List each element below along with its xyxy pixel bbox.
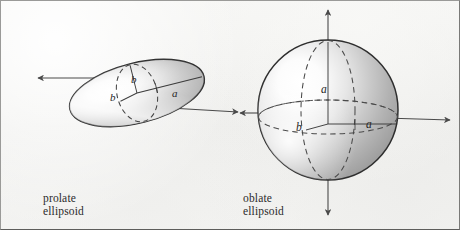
prolate-label-b-depth: b xyxy=(110,91,116,103)
oblate-label-b-depth: b xyxy=(296,121,302,133)
prolate-label-b-vertical: b xyxy=(131,73,137,85)
prolate-ellipsoid-group: b b a xyxy=(38,47,238,139)
oblate-label-a-vertical: a xyxy=(321,83,327,95)
oblate-label-a-horizontal: a xyxy=(366,118,372,130)
prolate-label-a-major: a xyxy=(172,87,178,99)
ellipsoid-figure: b b a a b a xyxy=(0,0,460,230)
oblate-ellipsoid-group: a b a xyxy=(240,10,450,215)
prolate-caption: prolate ellipsoid xyxy=(43,192,84,217)
oblate-caption: oblate ellipsoid xyxy=(243,192,284,217)
